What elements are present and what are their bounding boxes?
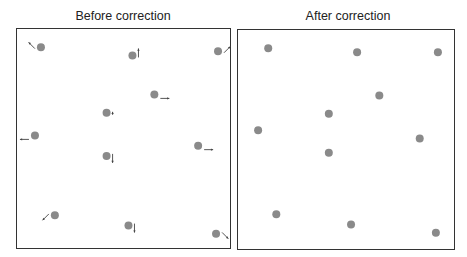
dot	[212, 230, 220, 238]
dot	[353, 48, 361, 56]
dot	[128, 51, 136, 59]
dot	[434, 48, 442, 56]
arrow-right-icon	[204, 148, 213, 150]
dot	[347, 221, 355, 229]
before-panel	[16, 28, 231, 249]
arrow-down-icon	[133, 224, 135, 233]
dot	[103, 109, 111, 117]
arrow-up-small-icon	[111, 112, 113, 115]
dot	[194, 142, 202, 150]
dot	[432, 229, 440, 237]
dot	[51, 211, 59, 219]
after-title: After correction	[238, 9, 458, 23]
dot	[103, 152, 111, 160]
arrow-down-right-icon	[222, 232, 228, 238]
after-panel	[237, 29, 455, 250]
arrow-up-left-icon	[29, 42, 35, 48]
dot	[272, 210, 280, 218]
arrow-right-icon	[160, 97, 169, 99]
dot	[150, 90, 158, 98]
arrow-up-icon	[137, 48, 139, 57]
dot	[375, 91, 383, 99]
dot	[325, 110, 333, 118]
after-plot	[238, 30, 456, 251]
arrow-down-icon	[111, 154, 113, 163]
before-title: Before correction	[18, 9, 228, 23]
dot	[325, 149, 333, 157]
before-plot	[17, 29, 232, 250]
arrow-left-icon	[20, 138, 29, 140]
dot	[254, 126, 262, 134]
dot	[31, 131, 39, 139]
dot	[37, 43, 45, 51]
arrow-up-right-icon	[224, 46, 230, 52]
dot	[124, 222, 132, 230]
dot	[416, 134, 424, 142]
arrow-down-left-icon	[43, 214, 49, 220]
dot	[214, 47, 222, 55]
dot	[264, 44, 272, 52]
